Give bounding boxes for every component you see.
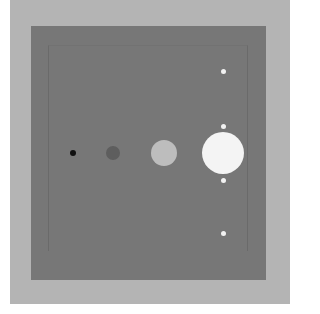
satellite-bottom	[221, 231, 226, 236]
satellite-upper	[221, 124, 226, 129]
smallest-black-circle	[70, 150, 76, 156]
small-gray-circle	[106, 146, 120, 160]
satellite-top	[221, 69, 226, 74]
satellite-lower	[221, 178, 226, 183]
medium-light-circle	[151, 140, 177, 166]
large-white-circle	[202, 132, 244, 174]
